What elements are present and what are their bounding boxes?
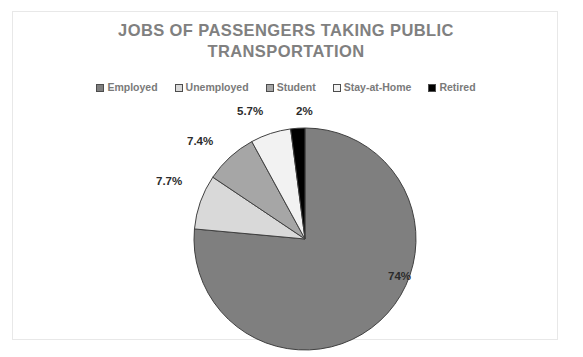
pie-chart-svg [181, 115, 429, 357]
chart-frame: JOBS OF PASSENGERS TAKING PUBLIC TRANSPO… [12, 11, 558, 340]
data-label-employed: 74% [388, 270, 411, 282]
pie-chart-area: 74% 7.7% 7.4% 5.7% 2% [13, 12, 559, 341]
data-label-unemployed: 7.7% [156, 175, 182, 187]
data-label-student: 7.4% [187, 135, 213, 147]
data-label-stay-at-home: 5.7% [237, 105, 263, 117]
data-label-retired: 2% [296, 105, 313, 117]
